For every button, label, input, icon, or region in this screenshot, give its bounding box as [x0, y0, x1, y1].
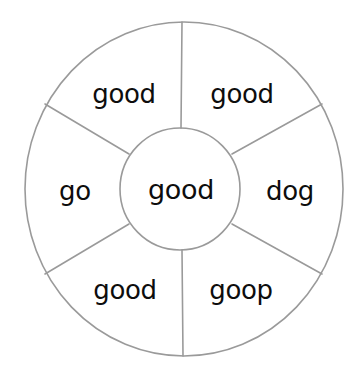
segment-word-bottom-right: goop: [209, 275, 273, 305]
spoke-lower-right: [232, 224, 322, 274]
segment-word-right: dog: [266, 176, 314, 206]
spoke-top: [181, 22, 182, 128]
spoke-lower-left: [45, 224, 129, 274]
segment-word-top-left: good: [92, 79, 156, 109]
word-wheel-canvas: good good dog goop good go good: [0, 0, 363, 377]
word-wheel-diagram: good good dog goop good go good: [0, 0, 363, 377]
segment-word-left: go: [59, 176, 91, 206]
center-word: good: [148, 174, 214, 205]
segment-word-top-right: good: [210, 79, 274, 109]
spoke-bottom: [182, 250, 183, 356]
spoke-upper-right: [232, 104, 322, 154]
spoke-upper-left: [45, 104, 129, 154]
segment-word-bottom-left: good: [93, 275, 157, 305]
